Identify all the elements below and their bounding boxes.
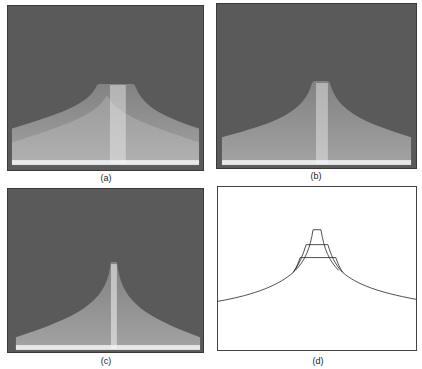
panel-b-peak-glow	[217, 4, 416, 168]
panel-b-image	[216, 3, 417, 169]
panel-a-label: (a)	[86, 173, 126, 183]
panel-c-image	[7, 188, 204, 353]
profile-wide-plateau	[218, 258, 416, 302]
profile-medium-plateau	[293, 245, 343, 273]
panel-d-label: (d)	[298, 356, 338, 366]
panel-c-label: (c)	[86, 356, 126, 366]
panel-a-peak-glow	[8, 6, 203, 170]
panel-a-image	[7, 5, 204, 171]
panel-d-profiles	[218, 187, 416, 350]
profile-narrow-peak	[295, 230, 339, 271]
panel-d-diagram	[217, 186, 417, 351]
panel-c-peak-glow	[8, 189, 203, 352]
panel-b-label: (b)	[296, 171, 336, 181]
